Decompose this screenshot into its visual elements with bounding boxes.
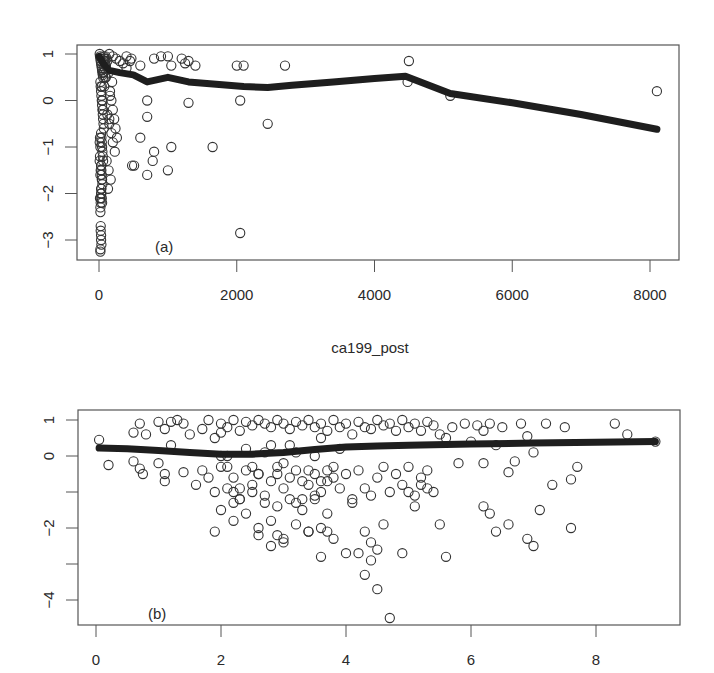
data-point [235, 426, 244, 435]
data-point [316, 477, 325, 486]
data-point [360, 527, 369, 536]
data-point [104, 460, 113, 469]
data-point [266, 541, 275, 550]
data-point [130, 161, 139, 170]
y-tick-label: 0 [39, 96, 56, 104]
data-point [248, 487, 257, 496]
data-point [348, 430, 357, 439]
data-point [108, 105, 117, 114]
data-point [360, 423, 369, 432]
data-point [566, 475, 575, 484]
data-point [423, 466, 432, 475]
data-point [479, 459, 488, 468]
data-point [239, 61, 248, 70]
data-point [373, 415, 382, 424]
data-point [208, 142, 217, 151]
data-point [454, 459, 463, 468]
data-point [341, 549, 350, 558]
data-point [138, 469, 147, 478]
data-point [210, 527, 219, 536]
data-point [266, 516, 275, 525]
y-tick-label: −2 [39, 185, 56, 202]
data-point [485, 419, 494, 428]
data-point [143, 170, 152, 179]
data-point [379, 462, 388, 471]
data-point [404, 56, 413, 65]
data-point [236, 96, 245, 105]
data-point [143, 112, 152, 121]
data-point [210, 433, 219, 442]
data-point [279, 484, 288, 493]
data-point [103, 184, 112, 193]
data-point [273, 502, 282, 511]
x-tick-label: 8000 [633, 286, 666, 303]
data-point [529, 541, 538, 550]
data-point [167, 61, 176, 70]
data-point [154, 459, 163, 468]
data-point [366, 556, 375, 565]
x-tick-label: 8 [592, 651, 600, 668]
panel-label-b: (b) [148, 605, 166, 622]
data-point [136, 133, 145, 142]
data-point [316, 433, 325, 442]
data-point [291, 466, 300, 475]
data-point [329, 534, 338, 543]
data-point [529, 448, 538, 457]
data-point [610, 419, 619, 428]
data-point [163, 52, 172, 61]
data-point [491, 527, 500, 536]
data-point [560, 423, 569, 432]
y-tick-label: 0 [40, 452, 57, 460]
x-tick-label: 4000 [358, 286, 391, 303]
data-point [473, 421, 482, 430]
data-point [573, 462, 582, 471]
data-point [448, 423, 457, 432]
data-point [210, 487, 219, 496]
data-point [416, 426, 425, 435]
data-point [229, 415, 238, 424]
y-axis-a: 10−1−2−3 [39, 50, 78, 249]
data-point [460, 419, 469, 428]
data-point [541, 419, 550, 428]
data-point [280, 61, 289, 70]
panel-b: 02468 10−2−4 (b) [40, 410, 681, 668]
data-point [504, 468, 513, 477]
data-point [135, 419, 144, 428]
y-tick-label: −3 [39, 231, 56, 248]
data-point [167, 142, 176, 151]
data-point [360, 570, 369, 579]
data-point [485, 509, 494, 518]
data-point [143, 96, 152, 105]
x-tick-label: 0 [95, 286, 103, 303]
data-point [504, 520, 513, 529]
data-point [535, 505, 544, 514]
data-point [179, 468, 188, 477]
data-point [236, 228, 245, 237]
data-point [323, 509, 332, 518]
data-point [110, 147, 119, 156]
x-axis-a: 02000400060008000 [95, 260, 667, 303]
data-point [229, 473, 238, 482]
data-point [366, 424, 375, 433]
data-point [510, 457, 519, 466]
x-tick-label: 6 [467, 651, 475, 668]
data-point [204, 415, 213, 424]
data-point [391, 426, 400, 435]
x-tick-label: 4 [342, 651, 350, 668]
data-point [373, 473, 382, 482]
x-tick-label: 2000 [220, 286, 253, 303]
smooth-line-b [99, 442, 655, 455]
data-point [96, 247, 105, 256]
data-point [166, 417, 175, 426]
data-point [385, 487, 394, 496]
data-point [241, 509, 250, 518]
data-point [441, 552, 450, 561]
data-point [354, 466, 363, 475]
data-point [385, 613, 394, 622]
data-point [128, 161, 137, 170]
y-tick-label: −1 [39, 138, 56, 155]
data-point [354, 549, 363, 558]
y-tick-label: −2 [40, 519, 57, 536]
panel-a: 02000400060008000 10−1−2−3 (a) ca199_pos… [39, 45, 680, 356]
data-point [623, 430, 632, 439]
